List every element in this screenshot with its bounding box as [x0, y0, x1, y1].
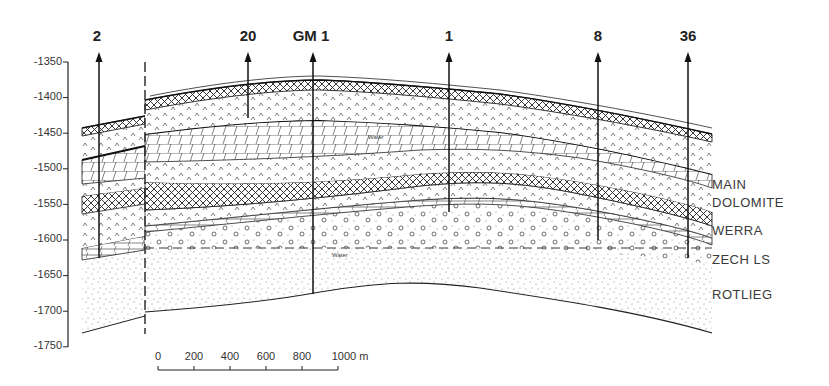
arrow-up-icon [595, 52, 602, 62]
well-label-gm1: GM 1 [293, 27, 330, 44]
unit-label-main: MAIN [712, 177, 747, 192]
left-fault-block [82, 116, 145, 333]
unit-label-zech-ls: ZECH LS [712, 252, 770, 267]
y-tick-label: -1500 [12, 161, 62, 173]
y-tick-label: -1400 [12, 90, 62, 102]
scale-label: 0 [155, 350, 161, 362]
unit-label-rotlieg: ROTLIEG [712, 287, 773, 302]
scale-label: 800 [293, 350, 311, 362]
well-label-20: 20 [240, 27, 257, 44]
cross-section-diagram [0, 0, 829, 386]
unit-label-werra: WERRA [712, 223, 763, 238]
scale-label: 200 [185, 350, 203, 362]
arrow-up-icon [310, 52, 317, 62]
y-tick-label: -1350 [12, 55, 62, 67]
main-fault-block [145, 76, 712, 333]
scale-label: 600 [257, 350, 275, 362]
scale-bar [158, 366, 338, 370]
y-tick-label: -1450 [12, 126, 62, 138]
water-label-upper: Water [368, 134, 384, 140]
y-tick-label: -1550 [12, 197, 62, 209]
y-axis [63, 62, 68, 347]
well-label-36: 36 [680, 27, 697, 44]
scale-label: 1000 m [332, 350, 369, 362]
well-label-2: 2 [93, 27, 101, 44]
y-tick-label: -1600 [12, 232, 62, 244]
arrow-up-icon [96, 52, 103, 62]
unit-label-dolomite: DOLOMITE [712, 195, 784, 210]
y-tick-label: -1750 [12, 339, 62, 351]
well-label-8: 8 [594, 27, 602, 44]
well-label-1: 1 [445, 27, 453, 44]
arrow-up-icon [245, 52, 252, 62]
y-tick-label: -1650 [12, 268, 62, 280]
arrow-up-icon [685, 52, 692, 62]
water-label-lower: Water [332, 252, 348, 258]
y-tick-label: -1700 [12, 304, 62, 316]
arrow-up-icon [446, 52, 453, 62]
scale-label: 400 [221, 350, 239, 362]
